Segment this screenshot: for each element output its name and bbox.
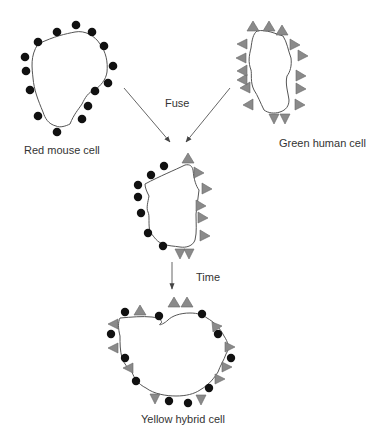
mouse-protein-icon — [53, 128, 62, 137]
human-protein-icon — [198, 212, 208, 223]
fuse-arrows: Fuse — [124, 88, 230, 142]
mouse-protein-icon — [34, 112, 43, 121]
human-protein-icon — [108, 319, 118, 329]
human-protein-icon — [196, 200, 206, 211]
mouse-protein-icon — [132, 377, 140, 385]
mouse-protein-icon — [21, 53, 30, 62]
mouse-protein-icon — [121, 308, 129, 316]
human-protein-icon — [247, 21, 259, 31]
mouse-protein-icon — [134, 193, 142, 201]
human-protein-icon — [202, 183, 212, 194]
arrow-human-to-fused — [186, 88, 230, 142]
mouse-protein-icon — [165, 397, 173, 405]
mouse-protein-icon — [72, 21, 81, 30]
human-protein-icon — [222, 362, 232, 372]
mouse-protein-icon — [160, 162, 168, 170]
human-protein-icon — [236, 53, 246, 63]
human-protein-icon — [298, 50, 308, 61]
human-protein-icon — [182, 153, 194, 163]
fused-cell — [134, 153, 212, 259]
human-protein-icon — [196, 395, 206, 405]
human-protein-icon — [263, 21, 275, 31]
human-protein-icon — [168, 297, 180, 307]
arrow-mouse-to-fused — [124, 88, 170, 142]
mouse-protein-icon — [109, 62, 118, 71]
mouse-protein-icon — [84, 102, 93, 111]
human-cell-label: Green human cell — [279, 137, 366, 149]
mouse-protein-icon — [144, 229, 152, 237]
mouse-protein-icon — [78, 115, 87, 124]
mouse-protein-icon — [104, 79, 113, 88]
mouse-protein-icon — [227, 354, 235, 362]
human-membrane — [249, 31, 291, 114]
mouse-cell-label: Red mouse cell — [24, 144, 100, 156]
time-arrow-group: Time — [172, 262, 220, 289]
human-protein-icon — [134, 305, 146, 315]
mouse-cell: Red mouse cell — [21, 21, 118, 156]
human-protein-icon — [290, 39, 300, 50]
mouse-protein-icon — [147, 171, 155, 179]
human-cell: Green human cell — [236, 21, 366, 149]
mouse-protein-icon — [53, 28, 62, 37]
cell-fusion-diagram: Red mouse cell Green human cell Fus — [0, 0, 380, 437]
mouse-protein-icon — [34, 38, 43, 47]
mouse-protein-icon — [107, 330, 115, 338]
mouse-protein-icon — [26, 86, 35, 95]
human-protein-icon — [280, 114, 290, 124]
fuse-label: Fuse — [165, 97, 189, 109]
hybrid-cell-label: Yellow hybrid cell — [141, 413, 225, 425]
diagram-canvas: Red mouse cell Green human cell Fus — [0, 0, 380, 437]
human-protein-icon — [181, 297, 193, 307]
mouse-protein-icon — [88, 28, 97, 37]
human-protein-icon — [108, 343, 118, 353]
mouse-protein-icon — [205, 384, 213, 392]
mouse-membrane — [32, 32, 107, 127]
human-protein-icon — [295, 99, 305, 110]
mouse-protein-icon — [134, 181, 142, 189]
human-protein-icon — [269, 114, 279, 124]
human-protein-icon — [194, 167, 204, 178]
human-protein-icon — [237, 39, 247, 49]
human-protein-icon — [296, 83, 306, 94]
hybrid-cell: Yellow hybrid cell — [107, 297, 235, 425]
human-protein-icon — [215, 374, 225, 384]
human-protein-icon — [225, 342, 235, 352]
mouse-protein-icon — [159, 242, 167, 250]
human-protein-icon — [200, 230, 210, 241]
mouse-protein-icon — [91, 87, 100, 96]
human-protein-icon — [296, 70, 306, 81]
human-protein-icon — [150, 394, 160, 404]
mouse-protein-icon — [155, 312, 163, 320]
human-protein-icon — [237, 65, 247, 76]
mouse-protein-icon — [184, 399, 192, 407]
mouse-protein-icon — [22, 67, 31, 76]
mouse-protein-icon — [137, 209, 145, 217]
human-protein-icon — [184, 249, 194, 259]
human-protein-icon — [175, 249, 185, 259]
human-protein-icon — [237, 74, 247, 85]
mouse-protein-icon — [121, 354, 129, 362]
mouse-protein-icon — [198, 310, 206, 318]
human-protein-icon — [276, 25, 288, 35]
human-protein-icon — [243, 99, 253, 110]
time-label: Time — [196, 271, 220, 283]
mouse-protein-icon — [100, 42, 109, 51]
mouse-protein-icon — [214, 330, 222, 338]
